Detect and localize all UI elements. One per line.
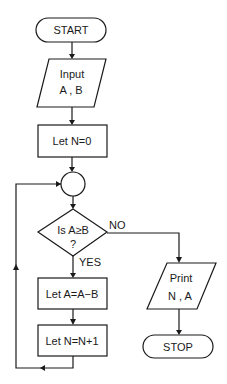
increment-label: Let N=N+1 (45, 335, 98, 347)
arrow-down-icon (176, 330, 182, 335)
arrow-down-icon (69, 54, 75, 59)
arrow-down-icon (70, 319, 76, 325)
arrow-down-icon (70, 204, 76, 209)
input-label-line2: A , B (59, 84, 82, 96)
decision-label-line2: ? (70, 238, 76, 250)
input-label-line1: Input (60, 68, 84, 80)
arrow-left-icon (40, 365, 45, 371)
decision-label-line1: Is A≥B (57, 224, 89, 236)
subtract-label: Let A=A−B (46, 288, 99, 300)
flowchart: START Input A , B Let N=0 Is A≥B ? NO YE… (0, 0, 227, 384)
stop-label: STOP (163, 341, 193, 353)
init-process-block: Let N=0 (38, 125, 107, 157)
subtract-process-block: Let A=A−B (38, 278, 107, 309)
stop-terminal: STOP (143, 335, 213, 358)
connector-circle (61, 172, 85, 196)
start-terminal: START (36, 18, 106, 42)
input-block: Input A , B (37, 59, 106, 107)
output-block: Print N , A (147, 263, 216, 309)
yes-branch-label: YES (79, 256, 101, 268)
output-label-line2: N , A (168, 290, 193, 302)
arrow-right-icon (56, 181, 61, 187)
decision-block: Is A≥B ? (38, 209, 107, 256)
arrow-down-icon (69, 167, 75, 172)
arrow-up-icon (13, 264, 19, 270)
arrow-down-icon (70, 273, 76, 278)
arrow-down-icon (69, 120, 75, 125)
output-label-line1: Print (170, 272, 193, 284)
increment-process-block: Let N=N+1 (38, 325, 107, 356)
init-label: Let N=0 (53, 135, 92, 147)
arrow-down-icon (176, 257, 182, 263)
start-label: START (53, 24, 88, 36)
no-branch-label: NO (109, 219, 126, 231)
